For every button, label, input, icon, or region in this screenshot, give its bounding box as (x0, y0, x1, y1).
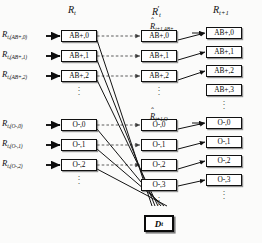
input-arrows-o (46, 125, 60, 165)
state-box-col3-ab-2[interactable]: AB+,2 (206, 65, 242, 77)
state-box-col3-o-2[interactable]: O-,2 (206, 155, 242, 167)
prediction-arrows-ab (178, 33, 205, 80)
ellipsis-col3-o: ··· (220, 190, 228, 200)
state-box-col3-o-0[interactable]: O-,0 (206, 117, 242, 129)
input-label-ab-0: Rt,(AB+,0) (2, 29, 27, 40)
column-header-rt-prime: R′t (152, 4, 161, 18)
state-box-col3-ab-3[interactable]: AB+,3 (206, 84, 242, 96)
hat-label-arrows (192, 33, 204, 123)
state-box-col2-o-2[interactable]: O-,2 (141, 159, 177, 171)
state-box-col2-ab-0[interactable]: AB+,0 (141, 30, 177, 42)
state-box-col2-ab-1[interactable]: AB+,1 (141, 50, 177, 62)
column-header-rt1: Rt+1 (213, 4, 229, 16)
state-box-col1-o-2[interactable]: O-,2 (61, 159, 97, 171)
column-header-rt: Rt (68, 4, 76, 16)
ellipsis-col3-ab: ··· (220, 100, 228, 110)
ellipsis-col1-o: ··· (75, 175, 83, 185)
ellipsis-col1-ab: ··· (75, 86, 83, 96)
input-label-ab-2: Rt,(AB+,2) (2, 69, 27, 80)
state-box-col1-ab-2[interactable]: AB+,2 (61, 70, 97, 82)
state-box-col3-o-3[interactable]: O-,3 (206, 174, 242, 186)
demand-box-dt[interactable]: Dt (144, 215, 174, 232)
state-box-col1-ab-1[interactable]: AB+,1 (61, 50, 97, 62)
state-box-col1-ab-0[interactable]: AB+,0 (61, 30, 97, 42)
state-box-col2-o-1[interactable]: O-,1 (141, 139, 177, 151)
state-box-col3-o-1[interactable]: O-,1 (206, 136, 242, 148)
ellipsis-demand: ··· (155, 196, 163, 206)
prediction-arrows-o (178, 123, 205, 186)
state-box-col3-ab-1[interactable]: AB+,1 (206, 46, 242, 58)
state-box-col1-o-1[interactable]: O-,1 (61, 139, 97, 151)
state-box-col2-o-3[interactable]: O-,3 (141, 179, 177, 191)
input-label-o-0: Rt,(O-,0) (2, 118, 23, 129)
state-box-col1-o-0[interactable]: O-,0 (61, 119, 97, 131)
input-label-o-2: Rt,(O-,2) (2, 158, 23, 169)
input-arrows-ab (46, 36, 60, 76)
ellipsis-col2-ab: ··· (155, 86, 163, 96)
state-box-col2-ab-2[interactable]: AB+,2 (141, 70, 177, 82)
input-label-o-1: Rt,(O-,1) (2, 138, 23, 149)
hat-label-o: ̂Rt+1,O- (150, 112, 169, 122)
state-box-col3-ab-0[interactable]: AB+,0 (206, 27, 242, 39)
figure-canvas: Rt R′t Rt+1 Rt,(AB+,0) Rt,(AB+,1) Rt,(AB… (0, 0, 262, 243)
dashed-transfer-arrows (97, 36, 140, 165)
input-label-ab-1: Rt,(AB+,1) (2, 49, 27, 60)
hat-label-ab: ̂Rt+1,AB+ (150, 22, 173, 32)
